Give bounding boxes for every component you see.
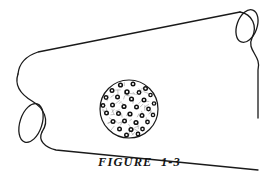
inset-cell <box>140 113 145 118</box>
inset-cell <box>128 127 133 132</box>
cell-nucleus <box>143 99 145 101</box>
inset-cell <box>116 111 121 116</box>
inset-cell <box>122 119 127 124</box>
cell-nucleus <box>141 114 143 116</box>
cell-nucleus <box>125 134 127 136</box>
inset-cell <box>124 89 129 94</box>
cell-nucleus <box>132 83 134 85</box>
inset-cell <box>146 107 151 112</box>
cell-nucleus <box>146 121 148 123</box>
cell-nucleus <box>130 98 132 100</box>
cell-nucleus <box>123 120 125 122</box>
cell-nucleus <box>118 128 120 130</box>
cell-nucleus <box>111 89 113 91</box>
inset-cell <box>118 82 123 87</box>
cell-nucleus <box>130 128 132 130</box>
inset-cell <box>134 105 139 110</box>
inset-cell <box>121 104 126 109</box>
inset-cell <box>110 88 115 93</box>
inset-cell <box>152 101 157 106</box>
inset-cell <box>129 96 134 101</box>
inset-cell <box>117 127 122 132</box>
inset-cell <box>111 119 116 124</box>
inset-cell <box>137 90 142 95</box>
cell-nucleus <box>147 108 149 110</box>
cell-nucleus <box>116 96 118 98</box>
inset-cell <box>104 111 109 116</box>
inset-cell <box>140 127 145 132</box>
cell-nucleus <box>129 113 131 115</box>
cell-nucleus <box>138 91 140 93</box>
cell-nucleus <box>126 91 128 93</box>
inset-cell <box>110 103 115 108</box>
cell-nucleus <box>150 94 152 96</box>
cell-nucleus <box>137 133 139 135</box>
inset-cell <box>145 120 150 125</box>
cell-nucleus <box>135 106 137 108</box>
cell-nucleus <box>119 84 121 86</box>
cell-nucleus <box>105 96 107 98</box>
figure-1-3: FIGURE 1-3 <box>0 0 279 179</box>
cell-nucleus <box>141 128 143 130</box>
inset-cell <box>131 82 136 87</box>
cell-nucleus <box>102 104 104 106</box>
cell-nucleus <box>123 105 125 107</box>
figure-illustration <box>0 0 279 179</box>
inset-cell <box>142 98 147 103</box>
inset-cell <box>127 111 132 116</box>
cell-nucleus <box>144 87 146 89</box>
inset-cell <box>115 95 120 100</box>
cell-nucleus <box>111 104 113 106</box>
magnified-cross-section-inset <box>100 80 158 138</box>
cell-nucleus <box>105 112 107 114</box>
inset-cell <box>104 95 109 100</box>
inset-cell <box>143 86 148 91</box>
cell-nucleus <box>117 112 119 114</box>
cell-nucleus <box>135 121 137 123</box>
inset-cell <box>151 113 156 118</box>
cell-nucleus <box>152 114 154 116</box>
figure-caption: FIGURE 1-3 <box>0 155 279 170</box>
inset-cell <box>133 120 138 125</box>
cell-nucleus <box>153 103 155 105</box>
inset-cell <box>124 133 129 138</box>
cell-nucleus <box>112 120 114 122</box>
inset-cell <box>148 93 153 98</box>
inset-cell <box>136 132 141 137</box>
inset-cell <box>101 103 106 108</box>
